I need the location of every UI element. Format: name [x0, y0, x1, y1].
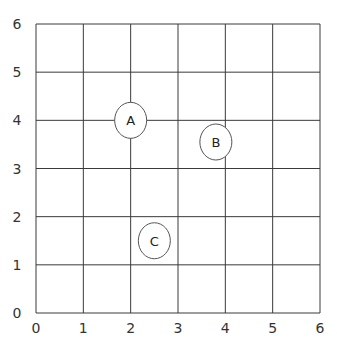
x-tick-label: 6: [316, 320, 325, 336]
grid-lines: [36, 24, 320, 313]
x-axis-ticks: 0123456: [32, 320, 325, 336]
y-tick-label: 1: [13, 257, 22, 273]
x-tick-label: 0: [32, 320, 41, 336]
y-tick-label: 4: [13, 112, 22, 128]
x-tick-label: 3: [174, 320, 183, 336]
point-label: A: [126, 113, 135, 128]
x-tick-label: 1: [79, 320, 88, 336]
point-b: B: [200, 124, 232, 160]
x-tick-label: 5: [268, 320, 277, 336]
coordinate-grid-chart: 0123456 0123456 ABC: [0, 0, 337, 348]
y-tick-label: 0: [13, 305, 22, 321]
point-label: C: [150, 234, 159, 249]
y-tick-label: 6: [13, 16, 22, 32]
x-tick-label: 4: [221, 320, 230, 336]
point-c: C: [138, 223, 170, 259]
y-tick-label: 5: [13, 64, 22, 80]
point-a: A: [115, 102, 147, 138]
point-label: B: [211, 135, 220, 150]
y-tick-label: 3: [13, 161, 22, 177]
y-axis-ticks: 0123456: [13, 16, 22, 321]
x-tick-label: 2: [126, 320, 135, 336]
y-tick-label: 2: [13, 209, 22, 225]
labeled-points: ABC: [115, 102, 232, 258]
